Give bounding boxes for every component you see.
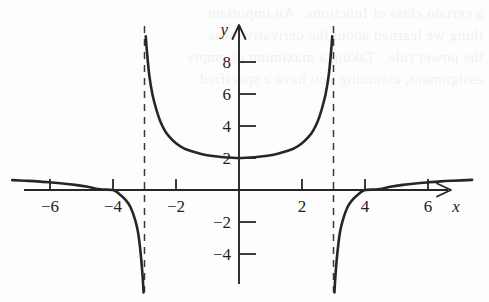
y-axis-label: y	[218, 20, 228, 39]
y-tick-label-4: 4	[223, 117, 232, 136]
function-graph-figure: −6 −4 −2 2 4 6 8 6 4 2 −2 −4 y x	[0, 0, 489, 302]
y-tick-label-6: 6	[223, 85, 232, 104]
y-axis	[233, 25, 246, 284]
x-tick-label--4: −4	[104, 197, 123, 216]
x-axis	[24, 184, 451, 197]
x-axis-label: x	[451, 197, 460, 216]
curve-left-outer-branch	[12, 180, 143, 292]
y-tick-label--4: −4	[213, 245, 232, 264]
x-tick-label-2: 2	[298, 197, 307, 216]
x-tick-label-4: 4	[361, 197, 370, 216]
x-tick-label-6: 6	[424, 197, 433, 216]
x-tick-label--6: −6	[41, 197, 59, 216]
y-tick-label--2: −2	[213, 213, 231, 232]
x-tick-label--2: −2	[167, 197, 185, 216]
y-tick-label-8: 8	[223, 53, 232, 72]
